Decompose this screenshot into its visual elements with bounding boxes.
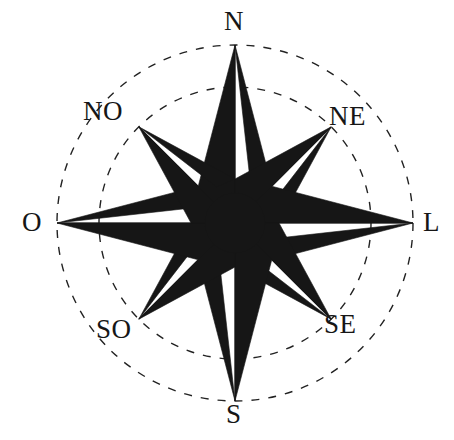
compass-label-west: O: [22, 209, 42, 236]
compass-label-southwest: SO: [96, 316, 132, 343]
compass-label-north: N: [224, 8, 244, 35]
compass-rose-figure: N NE L SE S SO O NO: [0, 0, 454, 440]
compass-label-east: L: [423, 209, 440, 236]
compass-label-southeast: SE: [324, 311, 357, 338]
compass-label-northwest: NO: [83, 98, 123, 125]
compass-rose-graphic: [0, 0, 454, 440]
compass-hub: [205, 193, 265, 253]
compass-label-south: S: [226, 401, 242, 428]
compass-label-northeast: NE: [329, 103, 366, 130]
